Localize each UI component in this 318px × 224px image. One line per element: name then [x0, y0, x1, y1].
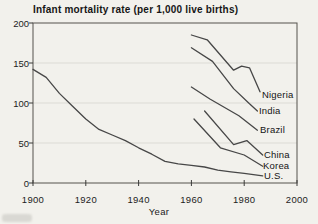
- chart: Infant mortality rate (per 1,000 live bi…: [0, 0, 318, 224]
- series-label-india: India: [259, 106, 281, 116]
- series-line-us: [33, 69, 263, 175]
- y-tick-label: 50: [0, 138, 29, 149]
- series-line-brazil: [191, 87, 257, 130]
- series-line-india: [191, 48, 257, 111]
- series-label-china: China: [264, 150, 290, 160]
- x-tick-label: 1920: [66, 194, 106, 205]
- scan-artifact-smudge: [2, 214, 32, 222]
- x-tick-label: 1940: [119, 194, 159, 205]
- y-tick-label: 100: [0, 98, 29, 109]
- x-tick-label: 2000: [277, 194, 317, 205]
- x-tick-label: 1960: [171, 194, 211, 205]
- series-label-brazil: Brazil: [260, 125, 285, 135]
- x-tick-label: 1900: [13, 194, 53, 205]
- x-tick-label: 1980: [224, 194, 264, 205]
- series-label-nigeria: Nigeria: [262, 90, 294, 100]
- y-tick-label: 150: [0, 58, 29, 69]
- x-axis-title: Year: [0, 206, 318, 217]
- series-label-us: U.S.: [264, 171, 283, 181]
- series-line-china: [205, 111, 263, 155]
- y-tick-label: 200: [0, 18, 29, 29]
- y-tick-label: 0: [0, 178, 29, 189]
